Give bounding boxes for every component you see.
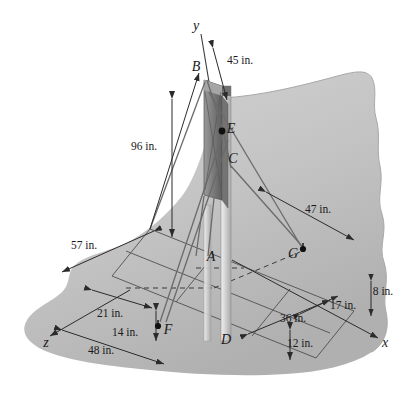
point-B: B bbox=[192, 59, 201, 75]
dim-45in: 45 in. bbox=[227, 54, 253, 66]
dim-36in: 36 in. bbox=[280, 312, 306, 324]
point-E: E bbox=[227, 121, 236, 137]
x-axis: x bbox=[382, 335, 388, 351]
point-F: F bbox=[164, 322, 173, 338]
point-A: A bbox=[207, 249, 216, 265]
dim-47in: 47 in. bbox=[305, 203, 331, 215]
mast-panel bbox=[204, 80, 228, 208]
point-C: C bbox=[228, 151, 237, 167]
dim-96in: 96 in. bbox=[131, 140, 157, 152]
statics-diagram bbox=[0, 0, 418, 397]
dim-8in: 8 in. bbox=[373, 285, 393, 297]
dim-12in: 12 in. bbox=[287, 337, 313, 349]
dim-21in: 21 in. bbox=[97, 307, 123, 319]
z-axis: z bbox=[43, 335, 48, 351]
dim-14in: 14 in. bbox=[112, 326, 138, 338]
dim-17in: 17 in. bbox=[330, 299, 356, 311]
y-axis: y bbox=[193, 18, 199, 34]
dot-E bbox=[219, 128, 226, 135]
point-D: D bbox=[221, 332, 231, 348]
dim-57in: 57 in. bbox=[71, 239, 97, 251]
figure-canvas: yxzBECADGF45 in.96 in.57 in.47 in.21 in.… bbox=[0, 0, 418, 397]
point-G: G bbox=[288, 246, 298, 262]
dim-48in: 48 in. bbox=[88, 344, 114, 356]
